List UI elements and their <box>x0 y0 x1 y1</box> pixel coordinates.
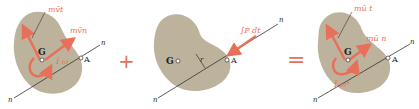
label-center: G <box>344 47 352 57</box>
label-momentum-n: mū n <box>366 34 386 43</box>
panel-final-momentum: mū t mū n Ī ω* G A n n <box>313 4 415 104</box>
label-angular: Ī ω <box>55 57 69 66</box>
label-angular: Ī ω* <box>333 80 350 89</box>
label-axis-top: n <box>410 38 415 46</box>
center-of-mass-point <box>176 59 180 63</box>
label-impulse: ∫P dt <box>240 26 261 35</box>
plus-operator: + <box>118 49 135 73</box>
rigid-body-shape <box>154 14 231 91</box>
point-a <box>79 56 83 60</box>
rigid-body-shape <box>14 12 82 94</box>
label-point: A <box>83 55 90 64</box>
label-momentum-n: mv̄n <box>70 26 87 35</box>
equals-operator: = <box>287 47 305 72</box>
rigid-body-shape <box>318 12 390 93</box>
label-axis-bottom: n <box>153 96 158 104</box>
label-point: A <box>391 55 398 64</box>
panel-impulse: ∫P dt G r A n n <box>153 14 284 104</box>
impulse-momentum-diagram: mv̄t mv̄n Ī ω G A n n + ∫P dt G r A n n … <box>0 0 419 109</box>
impulse-arrow <box>230 36 256 54</box>
label-axis-top: n <box>279 16 284 24</box>
label-axis-bottom: n <box>8 96 13 104</box>
center-of-mass-point <box>40 58 44 62</box>
label-axis-bottom: n <box>313 96 318 104</box>
label-momentum-t: mv̄t <box>48 5 64 14</box>
label-axis-top: n <box>101 39 106 47</box>
panel-initial-momentum: mv̄t mv̄n Ī ω G A n n <box>8 5 106 104</box>
center-of-mass-point <box>346 58 350 62</box>
label-center: G <box>166 56 174 66</box>
point-a <box>225 58 229 62</box>
label-point: A <box>230 56 237 65</box>
label-center: G <box>38 47 46 57</box>
point-a <box>386 56 390 60</box>
label-momentum-t: mū t <box>354 4 373 13</box>
